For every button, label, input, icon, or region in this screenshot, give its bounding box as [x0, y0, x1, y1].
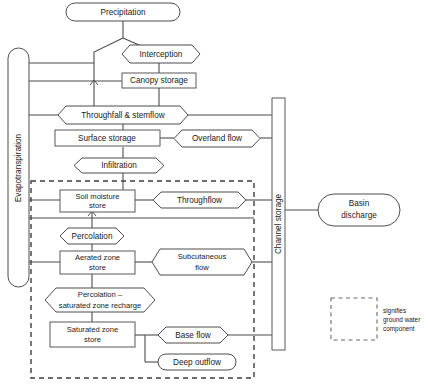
legend-line1: signifies — [383, 307, 406, 315]
legend-dashed-swatch — [331, 298, 377, 340]
subcutaneous-flow-label-line2: flow — [195, 263, 209, 272]
saturated-zone-store-label-line2: store — [84, 335, 101, 344]
node-canopy-storage: Canopy storage — [122, 73, 196, 88]
aerated-zone-store-label-line2: store — [89, 263, 106, 272]
node-channel-storage: Channel storage — [272, 98, 285, 350]
aerated-zone-store-label-line1: Aerated zone — [75, 253, 120, 262]
deep-outflow-label: Deep outflow — [173, 358, 221, 367]
overland-flow-label: Overland flow — [192, 134, 242, 143]
percolation-recharge-label-line2: saturated zone recharge — [59, 301, 141, 310]
node-subcutaneous-flow: Subcutaneous flow — [152, 249, 252, 275]
node-interception: Interception — [122, 45, 200, 63]
soil-moisture-store-label-line1: Soil moisture — [76, 192, 120, 201]
percolation-recharge-label-line1: Percolation – — [78, 290, 123, 299]
subcutaneous-flow-label-line1: Subcutaneous — [178, 252, 227, 261]
infiltration-label: Infiltration — [101, 161, 137, 170]
precipitation-label: Precipitation — [100, 8, 146, 17]
base-flow-label: Base flow — [175, 331, 211, 340]
node-throughfall-stemflow: Throughfall & stemflow — [58, 106, 188, 124]
throughfall-stemflow-label: Throughfall & stemflow — [81, 111, 164, 120]
interception-label: Interception — [140, 50, 183, 59]
node-deep-outflow: Deep outflow — [158, 354, 236, 370]
node-evapotranspiration: Evapotranspiration — [8, 48, 29, 287]
saturated-zone-store-label-line1: Saturated zone — [67, 325, 119, 334]
channel-storage-label: Channel storage — [274, 194, 283, 255]
canopy-storage-label: Canopy storage — [130, 76, 188, 85]
node-percolation: Percolation — [60, 228, 124, 244]
surface-storage-label: Surface storage — [78, 134, 136, 143]
node-percolation-saturated-zone-recharge: Percolation – saturated zone recharge — [45, 288, 155, 312]
throughflow-label: Throughflow — [177, 196, 222, 205]
node-infiltration: Infiltration — [74, 158, 164, 173]
node-throughflow: Throughflow — [153, 192, 246, 208]
legend-line3: component — [383, 325, 415, 333]
node-precipitation: Precipitation — [66, 3, 180, 21]
node-base-flow: Base flow — [158, 327, 228, 343]
node-overland-flow: Overland flow — [174, 130, 260, 147]
hydrological-cycle-diagram: Evapotranspiration Channel storage Preci… — [0, 0, 428, 392]
basin-discharge-label-line1: Basin — [349, 199, 370, 208]
percolation-label: Percolation — [72, 232, 113, 241]
node-surface-storage: Surface storage — [55, 130, 160, 146]
soil-moisture-store-label-line2: store — [89, 201, 106, 210]
node-aerated-zone-store: Aerated zone store — [60, 251, 135, 274]
legend-line2: ground water — [383, 316, 421, 324]
node-saturated-zone-store: Saturated zone store — [50, 322, 135, 347]
basin-discharge-label-line2: discharge — [341, 211, 377, 220]
evapotranspiration-label: Evapotranspiration — [14, 133, 23, 202]
node-soil-moisture-store: Soil moisture store — [60, 190, 135, 212]
node-basin-discharge: Basin discharge — [318, 194, 400, 226]
legend: signifies ground water component — [331, 298, 421, 340]
